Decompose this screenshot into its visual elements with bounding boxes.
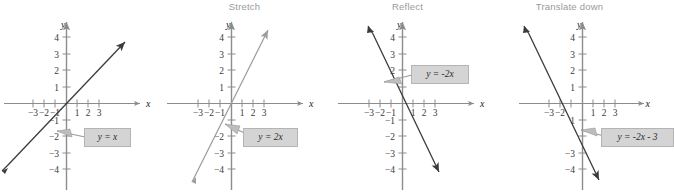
svg-text:3: 3 [219,50,224,60]
svg-text:−4: −4 [565,165,575,175]
plot-area-translate: −3 −2 1 2 3 4 3 2 1 1 −3 −4 x y [489,0,650,192]
svg-text:−4: −4 [385,165,395,175]
plot-area-identity: −3 −2 −1 1 2 3 4 3 2 1 −1 −2 −3 −4 x [0,0,163,192]
svg-text:−3: −3 [193,108,203,118]
svg-text:3: 3 [262,108,267,118]
equation-callout-translate: y = -2x - 3 [601,128,674,147]
y-axis [399,22,407,190]
y-axis [228,22,236,190]
svg-text:3: 3 [97,108,102,118]
svg-text:−4: −4 [214,165,224,175]
x-axis-label: x [479,98,485,109]
callout-leader-tip [581,128,597,136]
panel-identity: −3 −2 −1 1 2 3 4 3 2 1 −1 −2 −3 −4 x [0,0,163,192]
panel-stretch: Stretch [163,0,326,192]
svg-text:1: 1 [54,83,59,93]
svg-text:1: 1 [240,108,245,118]
svg-text:3: 3 [570,50,575,60]
svg-text:−3: −3 [214,149,224,159]
svg-text:4: 4 [54,33,59,43]
svg-text:−2: −2 [39,108,49,118]
svg-text:1: 1 [219,83,224,93]
y-axis-label: y [225,19,231,30]
equation-text: y = -2x [426,70,454,80]
svg-text:−3: −3 [565,149,575,159]
svg-text:1: 1 [75,108,80,118]
y-axis-label: y [576,19,582,30]
x-axis [4,100,140,108]
function-line-arrow-tail [523,26,530,33]
svg-text:−2: −2 [49,132,59,142]
panel-translate: Translate down [489,0,650,192]
callout-leader-tip [225,124,240,134]
equation-text: y = -2x - 3 [617,133,657,143]
svg-text:1: 1 [591,108,596,118]
panel-reflect: Reflect [326,0,489,192]
svg-text:2: 2 [251,108,256,118]
svg-text:−2: −2 [204,108,214,118]
svg-text:−1: −1 [385,116,395,126]
svg-text:1: 1 [570,83,575,93]
plot-area-stretch: −3 −2 −1 1 2 3 4 3 2 1 −2 −3 −4 x y [163,0,326,192]
svg-text:−3: −3 [49,149,59,159]
svg-text:−2: −2 [375,108,385,118]
y-axis [579,22,587,190]
svg-text:4: 4 [570,33,575,43]
y-axis-label: y [60,19,66,30]
svg-text:4: 4 [219,33,224,43]
x-axis [167,100,303,108]
svg-text:−1: −1 [215,108,225,118]
svg-text:2: 2 [570,66,575,76]
equation-text: y = 2x [258,133,282,143]
svg-text:−3: −3 [364,108,374,118]
svg-text:−2: −2 [555,108,565,118]
equation-callout-reflect: y = -2x [411,65,469,84]
equation-text: y = x [98,133,118,143]
svg-text:2: 2 [86,108,91,118]
x-axis-label: x [308,98,314,109]
svg-text:3: 3 [613,108,618,118]
svg-text:4: 4 [390,33,395,43]
svg-text:−4: −4 [49,165,59,175]
svg-text:2: 2 [219,66,224,76]
plot-area-reflect: −3 −2 −1 1 2 3 4 3 2 −1 −2 −3 −4 x y [326,0,489,192]
svg-text:2: 2 [422,108,427,118]
svg-text:2: 2 [54,66,59,76]
svg-text:2: 2 [602,108,607,118]
svg-text:−2: −2 [385,132,395,142]
svg-text:−3: −3 [544,108,554,118]
svg-text:−3: −3 [28,108,38,118]
x-axis-label: x [145,98,151,109]
svg-text:3: 3 [433,108,438,118]
callout-leader-tip [384,77,402,84]
x-axis-label: x [645,98,650,109]
svg-text:3: 3 [390,50,395,60]
equation-callout-stretch: y = 2x [243,128,298,147]
svg-text:−3: −3 [385,149,395,159]
y-axis-label: y [396,19,402,30]
equation-callout-identity: y = x [84,128,131,147]
x-axis [519,100,644,108]
function-line-arrow-tail [367,26,374,33]
svg-text:3: 3 [54,50,59,60]
